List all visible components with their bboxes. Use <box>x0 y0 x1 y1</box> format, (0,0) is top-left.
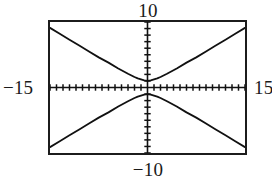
window-label-ymax: 10 <box>0 1 272 20</box>
graphing-calculator-screenshot: 10 −15 15 −10 <box>0 0 272 180</box>
plot-area <box>50 22 245 153</box>
calculator-viewport <box>48 20 247 155</box>
window-label-ymin: −10 <box>0 160 272 179</box>
window-label-xmin: −15 <box>3 78 33 97</box>
window-label-xmax: 15 <box>254 78 272 97</box>
